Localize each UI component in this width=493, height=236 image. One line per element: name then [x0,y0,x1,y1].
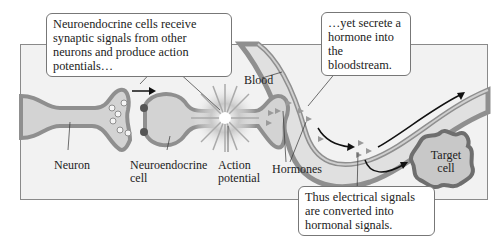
label-neuron: Neuron [54,159,90,172]
neuron-shape [21,90,131,150]
label-target-cell: Target cell [428,149,464,175]
label-hormones: Hormones [272,163,322,176]
action-potential-flash [191,84,259,152]
callout-hormone-secretion: …yet secrete a hormone into the bloodstr… [321,12,411,76]
callout-signal-conversion: Thus electrical signals are converted in… [298,186,435,236]
label-action-potential: Action potential [218,159,268,185]
callout-neuroendocrine-input: Neuroendocrine cells receive synaptic si… [46,13,232,77]
label-blood: Blood [244,74,273,87]
label-neuroendocrine-cell: Neuroendocrine cell [130,159,212,185]
